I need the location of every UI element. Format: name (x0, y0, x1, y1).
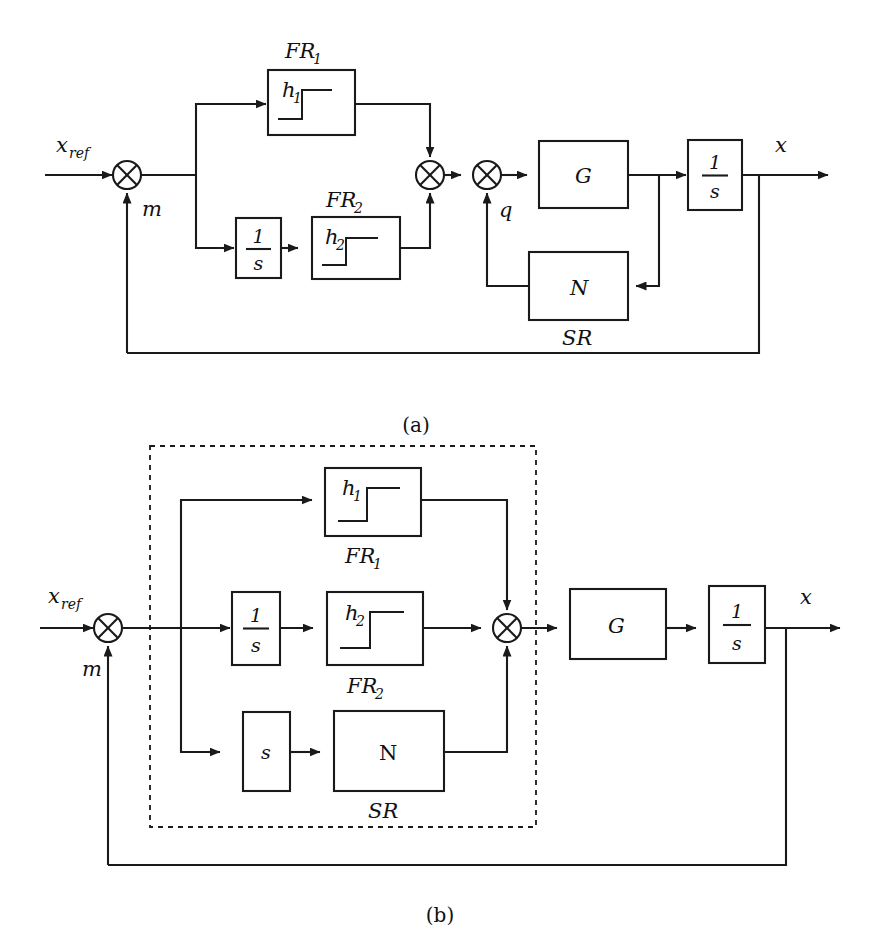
caption-a: (a) (402, 413, 430, 437)
block-fr1-caption-a: FR (284, 39, 316, 63)
block-diagram-svg: x ref m h 1 FR 1 (0, 0, 873, 946)
branch-down-s-b (181, 628, 208, 752)
label-xref-sub-b: ref (61, 596, 84, 612)
branch-up-fr1-a (196, 104, 254, 175)
block-fr1-sub-a: 1 (293, 90, 302, 106)
branch-to-n-a (646, 175, 659, 286)
block-fr2-caption-a: FR (325, 188, 357, 212)
caption-b: (b) (426, 903, 454, 927)
block-fr2-sub-a: 2 (335, 237, 345, 253)
block-int2-num-a: 1 (709, 151, 721, 173)
label-x-b: x (800, 585, 812, 609)
label-x-a: x (775, 133, 787, 157)
figure-canvas: x ref m h 1 FR 1 (0, 0, 873, 946)
block-int2-den-a: s (710, 180, 720, 202)
block-int2-den-b: s (732, 632, 742, 654)
label-xref-sub-a: ref (69, 145, 92, 161)
sum-junction-main-b (94, 614, 122, 642)
label-m-a: m (142, 197, 162, 221)
outer-feedback-a (127, 175, 759, 353)
block-fr2-caption-sub-b: 2 (374, 686, 384, 702)
block-fr1-b: h 1 (325, 468, 421, 536)
sum-junction-q-a (473, 161, 501, 189)
label-q-a: q (499, 198, 512, 222)
sum-junction-main-a (113, 161, 141, 189)
sum-junction-fr-a (416, 161, 444, 189)
block-int2-num-b: 1 (731, 600, 743, 622)
block-int1-num-a: 1 (252, 225, 264, 247)
block-fr2-caption-b: FR (346, 674, 378, 698)
block-fr2-caption-sub-a: 2 (353, 200, 363, 216)
branch-down-int-a (196, 175, 222, 248)
sum-junction-merge-b (493, 614, 521, 642)
block-int1-b: 1 s (232, 592, 280, 665)
block-s-label-b: s (261, 741, 271, 763)
block-g-a: G (539, 141, 628, 208)
block-n-label-a: N (569, 276, 589, 300)
block-s-b: s (243, 712, 290, 791)
block-fr1-caption-b: FR (344, 544, 376, 568)
block-n-caption-a: SR (562, 326, 592, 350)
label-m-b: m (82, 657, 102, 681)
block-n-a: N (529, 252, 628, 320)
block-fr2-b: h 2 (327, 592, 423, 665)
block-fr2-a: h 2 (312, 217, 400, 279)
block-n-b: N (334, 711, 444, 791)
block-int2-a: 1 s (688, 140, 742, 210)
diagram-b: x ref m h 1 FR 1 (40, 446, 840, 865)
block-int1-den-b: s (251, 634, 261, 656)
fr2-out-a (400, 203, 430, 248)
fr1-out-b (421, 500, 507, 600)
block-int1-num-b: 1 (250, 604, 262, 626)
block-n-caption-b: SR (368, 799, 398, 823)
block-fr1-caption-sub-b: 1 (373, 556, 382, 572)
block-fr2-sub-b: 2 (355, 613, 365, 629)
diagram-a: x ref m h 1 FR 1 (45, 39, 828, 353)
block-int1-a: 1 s (236, 218, 281, 278)
label-xref-b: x (48, 584, 60, 608)
n-out-b (444, 656, 507, 752)
fr1-out-a (355, 104, 430, 147)
block-g-b: G (570, 589, 666, 659)
block-g-label-b: G (608, 614, 625, 638)
outer-feedback-b (108, 628, 786, 865)
block-fr1-caption-sub-a: 1 (313, 51, 322, 67)
block-int1-den-a: s (254, 252, 264, 274)
block-fr1-sub-b: 1 (353, 488, 362, 504)
block-n-label-b: N (379, 741, 397, 765)
label-xref-a: x (56, 133, 68, 157)
block-int2-b: 1 s (709, 586, 765, 663)
block-g-label-a: G (575, 164, 592, 188)
block-fr1-a: h 1 (268, 70, 355, 135)
